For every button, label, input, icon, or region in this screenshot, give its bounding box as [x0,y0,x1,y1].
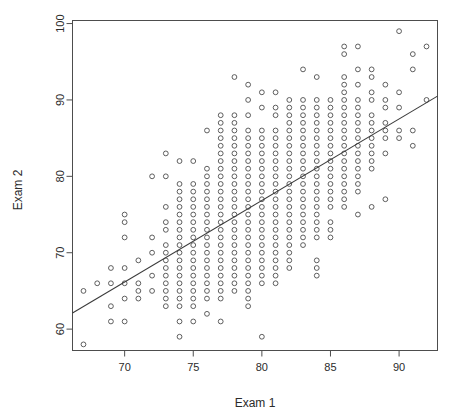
x-tick-label: 80 [256,361,268,373]
x-axis-title: Exam 1 [235,396,276,410]
y-tick-label: 60 [55,323,67,335]
figure-background [0,0,455,420]
x-tick-label: 90 [393,361,405,373]
plot-canvas: 7075808590 60708090100 Exam 1 Exam 2 [0,0,455,420]
y-tick-label: 100 [55,14,67,32]
y-axis-title: Exam 2 [11,169,25,210]
y-tick-label: 70 [55,247,67,259]
x-tick-label: 70 [119,361,131,373]
y-tick-label: 80 [55,170,67,182]
scatter-plot-figure: 7075808590 60708090100 Exam 1 Exam 2 [0,0,455,420]
y-tick-label: 90 [55,94,67,106]
x-tick-label: 85 [324,361,336,373]
x-tick-label: 75 [187,361,199,373]
